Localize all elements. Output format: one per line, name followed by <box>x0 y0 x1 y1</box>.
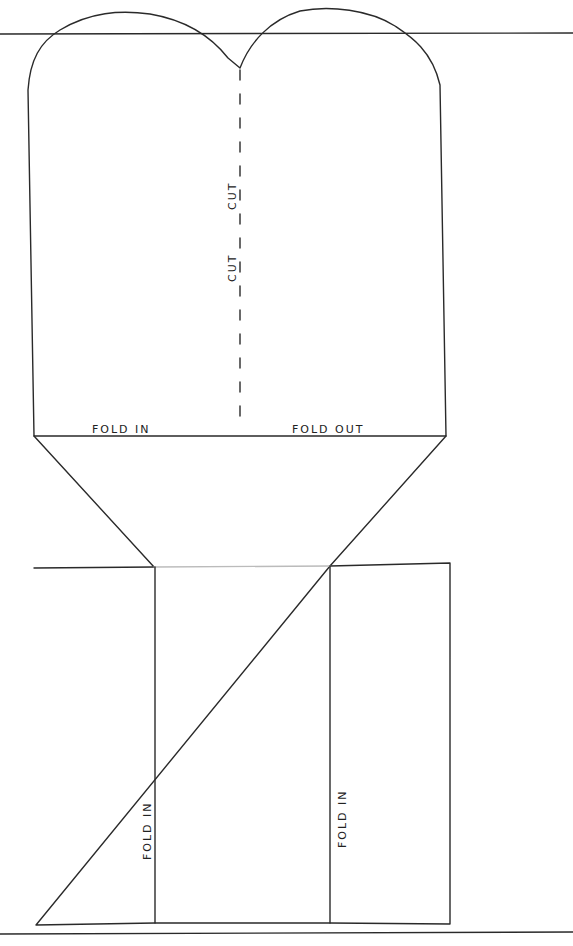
cut-label-right: CUT <box>226 182 239 210</box>
page-bottom-border <box>0 932 573 934</box>
fold-in-top-label: FOLD IN <box>92 423 151 436</box>
cut-label-left: CUT <box>226 254 239 282</box>
fold-in-right-panel-label: FOLD IN <box>336 789 349 848</box>
bottom-top-edge-center <box>154 566 330 567</box>
trapezoid-section <box>34 436 446 567</box>
bottom-panel-outline <box>34 563 450 925</box>
fold-out-top-label: FOLD OUT <box>292 423 365 436</box>
craft-template-diagram: CUT CUT FOLD IN FOLD OUT FOLD IN FOLD IN <box>0 0 573 946</box>
fold-in-left-panel-label: FOLD IN <box>141 801 154 860</box>
arch-panel-outline <box>28 9 446 436</box>
page-top-border <box>0 33 573 34</box>
